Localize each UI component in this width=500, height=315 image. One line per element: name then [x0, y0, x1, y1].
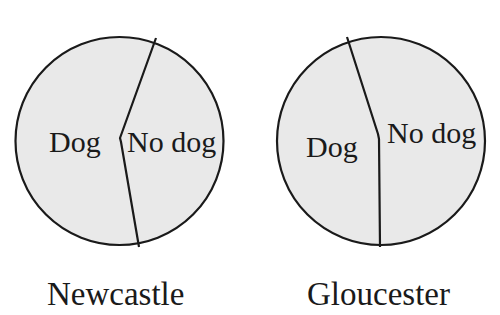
gloucester-dog-label: Dog [306, 130, 358, 163]
pie-chart-figure: Dog No dog Dog No dog Newcastle Gloucest… [0, 0, 500, 315]
newcastle-no-dog-label: No dog [127, 125, 216, 158]
gloucester-no-dog-label: No dog [387, 116, 476, 149]
newcastle-dog-label: Dog [49, 125, 101, 158]
gloucester-caption: Gloucester [307, 276, 450, 312]
gloucester-pie-chart: Dog No dog [277, 37, 485, 247]
newcastle-pie-chart: Dog No dog [16, 37, 224, 247]
newcastle-caption: Newcastle [47, 276, 184, 312]
